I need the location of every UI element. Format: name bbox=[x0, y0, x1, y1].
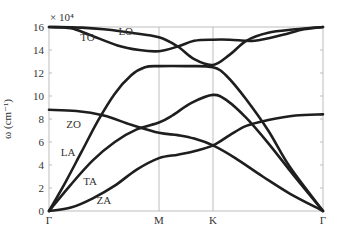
label-lo: LO bbox=[118, 25, 133, 37]
x-tick-label-M: M bbox=[154, 214, 164, 226]
y-tick-label: 4 bbox=[39, 159, 45, 171]
y-multiplier-label: × 10⁴ bbox=[50, 11, 74, 23]
label-ta: TA bbox=[83, 175, 97, 187]
y-tick-label: 14 bbox=[33, 44, 45, 56]
label-to: TO bbox=[80, 31, 95, 43]
y-tick-label: 6 bbox=[39, 136, 45, 148]
label-za: ZA bbox=[96, 194, 111, 206]
y-axis-title: ω (cm⁻¹) bbox=[1, 99, 14, 139]
y-tick-label: 10 bbox=[33, 90, 45, 102]
label-la: LA bbox=[61, 146, 76, 158]
y-tick-label: 16 bbox=[33, 21, 45, 33]
x-axis-ticks: ΓMKΓ bbox=[46, 214, 326, 226]
y-tick-label: 12 bbox=[33, 67, 44, 79]
x-tick-label-Γ: Γ bbox=[46, 214, 52, 226]
y-tick-label: 8 bbox=[39, 113, 45, 125]
label-zo: ZO bbox=[66, 118, 81, 130]
phonon-dispersion-chart: 0246810121416 ΓMKΓ TOLOZOLATAZA × 10⁴ ω … bbox=[0, 0, 342, 237]
y-tick-label: 0 bbox=[39, 205, 45, 217]
x-tick-label-Γ: Γ bbox=[320, 214, 326, 226]
y-tick-label: 2 bbox=[39, 182, 45, 194]
x-tick-label-K: K bbox=[209, 214, 217, 226]
